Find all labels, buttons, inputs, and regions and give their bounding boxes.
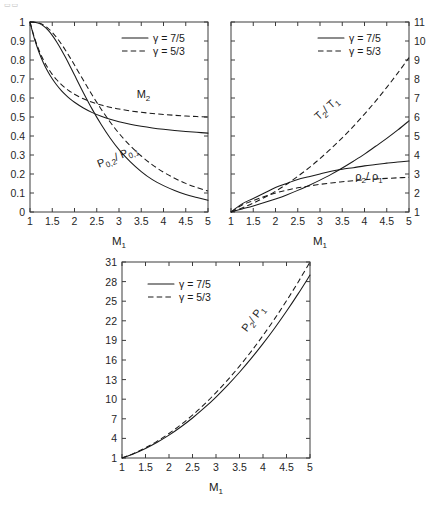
x-tick-label: 2 [72, 215, 78, 227]
x-tick-label: 1.5 [138, 461, 153, 473]
curve-solid [122, 275, 310, 458]
panel-2-xaxis-title: M1 [313, 235, 328, 250]
panel-3: 11.522.533.544.551471013161922252831M1γ … [105, 256, 313, 496]
y-tick-label: 16 [105, 354, 117, 366]
normal-shock-relations-figure: ▭▭ 11.522.533.544.5500.10.20.30.40.50.60… [0, 0, 443, 511]
y-tick-label: 0.7 [10, 73, 25, 85]
x-tick-label: 2 [166, 461, 172, 473]
x-tick-label: 2.5 [185, 461, 200, 473]
x-tick-label: 4 [362, 215, 368, 227]
x-tick-label: 3 [213, 461, 219, 473]
y-tick-label: 1 [111, 452, 117, 464]
panel-3-axes-box [122, 262, 310, 458]
x-tick-label: 4.5 [379, 215, 394, 227]
x-tick-label: 5 [307, 461, 313, 473]
y-tick-label: 0.6 [10, 92, 25, 104]
x-tick-label: 5 [406, 215, 412, 227]
y-tick-label: 0.5 [10, 111, 25, 123]
x-tick-label: 4 [161, 215, 167, 227]
x-tick-label: 4.5 [279, 461, 294, 473]
x-tick-label: 4 [260, 461, 266, 473]
x-tick-label: 1 [228, 215, 234, 227]
y-tick-label: 22 [105, 315, 117, 327]
y-tick-label: 10 [105, 393, 117, 405]
y-tick-label: 0.2 [10, 168, 25, 180]
y-tick-label: 0.8 [10, 54, 25, 66]
curve-annotation: M2 [137, 88, 151, 103]
x-tick-label: 1 [27, 215, 33, 227]
y-tick-label: 0.1 [10, 187, 25, 199]
x-tick-label: 3.5 [232, 461, 247, 473]
y-tick-label: 7 [414, 92, 420, 104]
x-tick-label: 3 [317, 215, 323, 227]
x-tick-label: 2.5 [89, 215, 104, 227]
y-tick-label: 0 [19, 206, 25, 218]
x-tick-label: 1.5 [246, 215, 261, 227]
curve-annotation: T2/ T1 [312, 94, 343, 124]
y-tick-label: 1 [414, 206, 420, 218]
y-tick-label: 0.4 [10, 130, 25, 142]
y-tick-label: 3 [414, 168, 420, 180]
curve-annotation: P0,2/ P0,1 [95, 142, 141, 172]
y-tick-label: 19 [105, 334, 117, 346]
legend-label-solid: γ = 7/5 [153, 32, 185, 44]
x-tick-label: 1 [119, 461, 125, 473]
legend-label-dashed: γ = 5/3 [179, 291, 211, 303]
curve-solid [231, 121, 409, 212]
panel-3-xaxis-title: M1 [209, 481, 224, 496]
x-tick-label: 3.5 [335, 215, 350, 227]
y-tick-label: 5 [414, 130, 420, 142]
y-tick-label: 13 [105, 374, 117, 386]
y-tick-label: 6 [414, 111, 420, 123]
curve-dashed [122, 262, 310, 458]
y-tick-label: 8 [414, 73, 420, 85]
corner-artifact-mark: ▭▭ [4, 1, 19, 9]
y-tick-label: 25 [105, 295, 117, 307]
y-tick-label: 7 [111, 413, 117, 425]
x-tick-label: 2.5 [290, 215, 305, 227]
y-tick-label: 4 [414, 149, 420, 161]
y-tick-label: 1 [19, 16, 25, 28]
legend-label-dashed: γ = 5/3 [153, 45, 185, 57]
y-tick-label: 11 [414, 16, 425, 28]
y-tick-label: 0.9 [10, 35, 25, 47]
x-tick-label: 4.5 [178, 215, 193, 227]
x-tick-label: 3 [116, 215, 122, 227]
x-tick-label: 5 [205, 215, 211, 227]
y-tick-label: 28 [105, 276, 117, 288]
panel-1: 11.522.533.544.5500.10.20.30.40.50.60.70… [10, 16, 211, 250]
x-tick-label: 3.5 [134, 215, 149, 227]
curve-annotation: P2/ P1 [239, 303, 269, 336]
y-tick-label: 0.3 [10, 149, 25, 161]
figure-canvas: 11.522.533.544.5500.10.20.30.40.50.60.70… [0, 0, 443, 511]
curve-dashed [231, 58, 409, 212]
legend-label-solid: γ = 7/5 [349, 32, 381, 44]
panel-1-xaxis-title: M1 [112, 235, 127, 250]
legend-label-solid: γ = 7/5 [179, 278, 211, 290]
y-tick-label: 10 [414, 35, 426, 47]
y-tick-label: 31 [105, 256, 117, 268]
y-tick-label: 2 [414, 187, 420, 199]
panel-2: 11.522.533.544.551234567891011M1γ = 7/5γ… [228, 16, 426, 250]
y-tick-label: 9 [414, 54, 420, 66]
y-tick-label: 4 [111, 432, 117, 444]
x-tick-label: 2 [273, 215, 279, 227]
curve-annotation: ρ2/ ρ1 [355, 170, 383, 185]
x-tick-label: 1.5 [45, 215, 60, 227]
legend-label-dashed: γ = 5/3 [349, 45, 381, 57]
